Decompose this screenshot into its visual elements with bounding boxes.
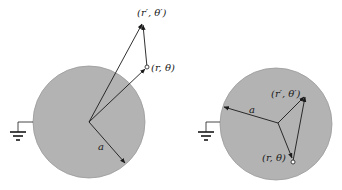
- ground-icon: [198, 122, 220, 140]
- right-panel: (r′, θ′) (r, θ) a: [198, 68, 332, 180]
- source-point-label: (r′, θ′): [271, 88, 301, 99]
- right-sphere: [220, 68, 332, 180]
- source-point-label: (r′, θ′): [137, 7, 167, 18]
- left-panel: (r′, θ′) (r, θ) a: [10, 7, 175, 178]
- field-point-marker: [291, 160, 295, 164]
- field-point-marker: [145, 65, 149, 69]
- radius-label: a: [249, 104, 255, 115]
- separation-vector: [143, 25, 147, 67]
- ground-icon: [10, 122, 33, 140]
- field-point-label: (r, θ): [151, 62, 175, 73]
- diagram-canvas: (r′, θ′) (r, θ) a (r′, θ′) (r, θ) a: [0, 0, 342, 190]
- radius-label: a: [98, 141, 104, 152]
- field-point-label: (r, θ): [262, 152, 286, 163]
